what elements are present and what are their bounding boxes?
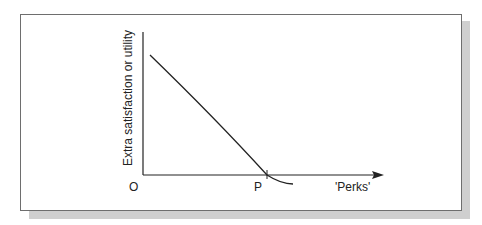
y-axis-label: Extra satisfaction or utility — [121, 30, 135, 166]
origin-label: O — [129, 180, 138, 194]
marginal-utility-chart: Extra satisfaction or utility O P 'Perks… — [0, 0, 482, 225]
p-label: P — [254, 180, 262, 194]
utility-curve — [150, 55, 293, 184]
x-axis-label: 'Perks' — [335, 180, 370, 194]
